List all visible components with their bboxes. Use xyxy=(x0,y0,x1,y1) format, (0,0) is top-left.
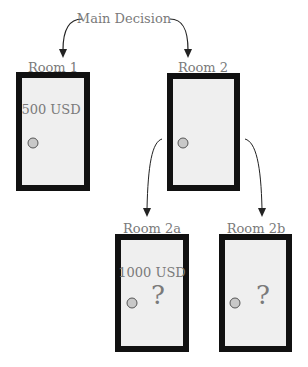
room2a-door-knob xyxy=(127,298,138,309)
arrowhead-room2 xyxy=(184,49,192,58)
room2a-unknown-mark: ? xyxy=(151,282,165,308)
room2a-amount: 1000 USD xyxy=(118,266,186,279)
arrowhead-room2b xyxy=(258,208,266,217)
room2b-unknown-mark: ? xyxy=(256,282,270,308)
arrowhead-room2a xyxy=(143,208,151,217)
room1-door-knob xyxy=(28,138,39,149)
room1-amount: 500 USD xyxy=(21,103,80,116)
arrowhead-room1 xyxy=(59,49,67,58)
room2-door[interactable] xyxy=(167,73,240,191)
room1-door[interactable] xyxy=(16,72,90,191)
room2-door-knob xyxy=(178,138,189,149)
arrow-room2-to-room2b xyxy=(245,139,262,209)
arrow-room2-to-room2a xyxy=(147,139,162,209)
room2b-door-knob xyxy=(230,298,241,309)
decision-diagram: Main Decision Room 1 500 USD Room 2 Room… xyxy=(0,0,308,367)
arrow-main-to-room2 xyxy=(170,19,188,50)
main-decision-label: Main Decision xyxy=(77,12,171,25)
